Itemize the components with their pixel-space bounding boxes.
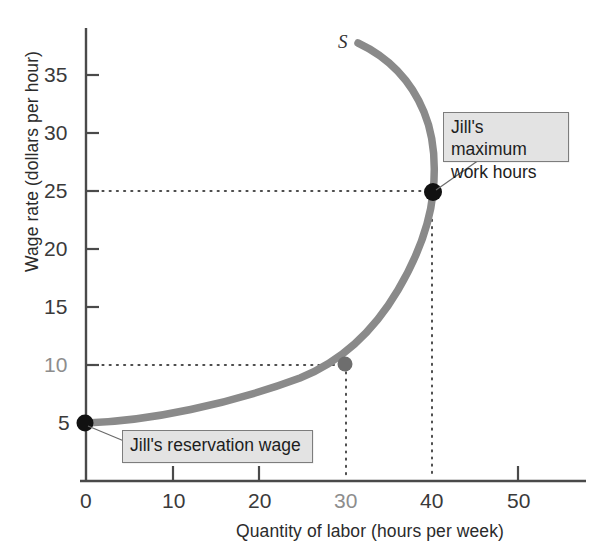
x-tick-label-20: 20 [248, 490, 271, 511]
y-tick-label-25: 25 [44, 180, 67, 201]
chart-canvas [0, 0, 593, 546]
y-tick-label-30: 30 [44, 122, 67, 143]
y-tick-label-5: 5 [58, 412, 70, 433]
supply-curve-label: S [338, 31, 348, 53]
x-tick-label-40: 40 [420, 490, 443, 511]
maximum-work-hours-callout: Jill's maximum work hours [443, 112, 569, 162]
x-tick-label-30: 30 [334, 490, 357, 511]
supply-curve-path [86, 43, 434, 423]
callout-leaders [88, 160, 479, 446]
y-tick-label-35: 35 [44, 64, 67, 85]
x-axis-title: Quantity of labor (hours per week) [236, 521, 504, 542]
y-tick-label-15: 15 [44, 296, 67, 317]
x-tick-label-50: 50 [507, 490, 530, 511]
y-axis-ticks [86, 75, 99, 365]
midpoint-30-10 [338, 357, 353, 372]
reservation-wage-callout: Jill's reservation wage [122, 430, 313, 463]
supply-curve [86, 43, 434, 423]
y-tick-label-10: 10 [44, 354, 67, 375]
reservation-wage-point [77, 415, 94, 432]
y-axis-title: Wage rate (dollars per hour) [22, 51, 43, 272]
x-tick-label-10: 10 [162, 490, 185, 511]
x-tick-label-0: 0 [80, 490, 92, 511]
labor-supply-chart: 35 30 25 20 15 10 5 0 10 20 30 40 50 Wag… [0, 0, 593, 546]
y-tick-label-20: 20 [44, 238, 67, 259]
maximum-work-hours-point [424, 183, 442, 201]
